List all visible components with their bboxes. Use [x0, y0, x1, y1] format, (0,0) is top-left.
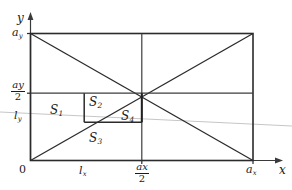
- y-axis-label: y: [17, 12, 24, 24]
- y-tick-label-ay: ay: [12, 27, 22, 38]
- region-label-s2: S2: [89, 96, 102, 108]
- y-tick-label-ay-half: ay 2: [8, 80, 28, 102]
- x-tick-label-ax-half: ax 2: [132, 162, 152, 184]
- origin-label: 0: [19, 164, 26, 175]
- region-label-s4: S4: [121, 110, 134, 122]
- region-label-s3: S3: [89, 132, 102, 144]
- x-tick-label-lx: lx: [79, 165, 86, 176]
- x-axis-label: x: [279, 164, 286, 176]
- y-tick-label-ly: ly: [14, 110, 21, 121]
- x-tick-label-ax: ax: [246, 164, 256, 175]
- scan-artifact-line: [0, 112, 292, 126]
- region-label-s1: S1: [50, 104, 63, 116]
- y-axis-arrow-icon: [28, 12, 34, 20]
